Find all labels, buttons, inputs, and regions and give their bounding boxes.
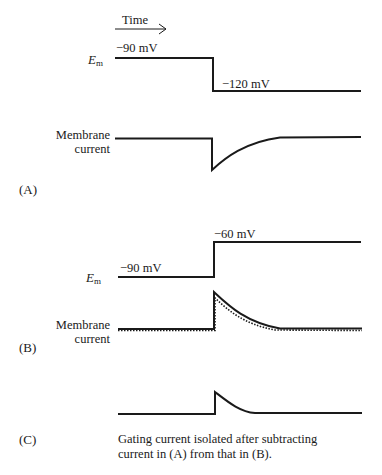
panel-a-em-label: Em [88,53,103,70]
panel-b-em-label: Em [86,271,101,288]
panel-a-step-voltage: −120 mV [222,78,270,91]
panel-b-current-trace [118,292,362,329]
time-label: Time [122,14,148,27]
panel-b-current-label: Membrane current [30,318,110,346]
panel-c-caption: Gating current isolated after subtractin… [118,432,358,462]
panel-a-current-label: Membrane current [30,128,110,156]
panel-b-tag: (B) [19,340,36,356]
panel-a-current-trace [115,137,361,170]
panel-b-holding-voltage: −90 mV [120,262,161,275]
figure-traces [0,0,382,475]
panel-b-step-voltage: −60 mV [214,228,255,241]
panel-c-gating-current-trace [118,392,362,414]
panel-a-tag: (A) [19,182,37,198]
panel-c-tag: (C) [19,432,36,448]
panel-a-holding-voltage: −90 mV [116,42,157,55]
